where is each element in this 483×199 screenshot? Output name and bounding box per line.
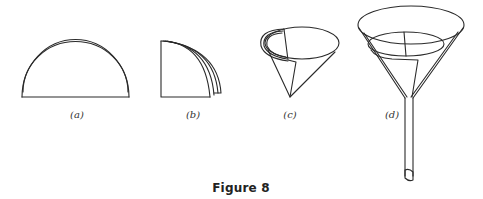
panel-d-funnel [358, 6, 464, 181]
figure-drawing [0, 0, 483, 199]
panel-c-label: (c) [283, 109, 296, 120]
panel-c-cone [261, 27, 339, 97]
panel-a-label: (a) [70, 109, 84, 120]
figure-caption: Figure 8 [212, 181, 270, 195]
panel-b-label: (b) [186, 109, 200, 120]
panel-b-quarter [161, 41, 221, 97]
panel-d-label: (d) [385, 109, 399, 120]
panel-a-semicircle [22, 39, 129, 97]
